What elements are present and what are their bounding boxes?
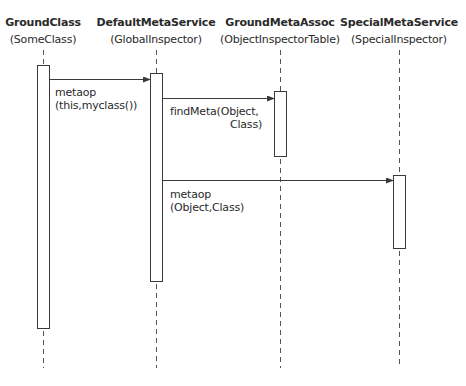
- activation-groundmetaassoc: [275, 92, 287, 157]
- message-label-line2: (Object,Class): [170, 201, 244, 214]
- activation-defaultmetaservice: [151, 74, 163, 282]
- message-label-line2: (this,myclass()): [55, 99, 137, 112]
- message-label-line1: metaop: [55, 86, 137, 99]
- message-label-line2: Class): [170, 118, 262, 131]
- message-label-findmeta: findMeta(Object, Class): [170, 105, 262, 131]
- message-label-line1: metaop: [170, 188, 244, 201]
- activation-groundclass: [38, 66, 50, 329]
- activation-specialmetaservice: [394, 176, 406, 249]
- message-label-line1: findMeta(Object,: [170, 105, 262, 118]
- message-label-metaop-2: metaop (Object,Class): [170, 188, 244, 214]
- message-label-metaop-1: metaop (this,myclass()): [55, 86, 137, 112]
